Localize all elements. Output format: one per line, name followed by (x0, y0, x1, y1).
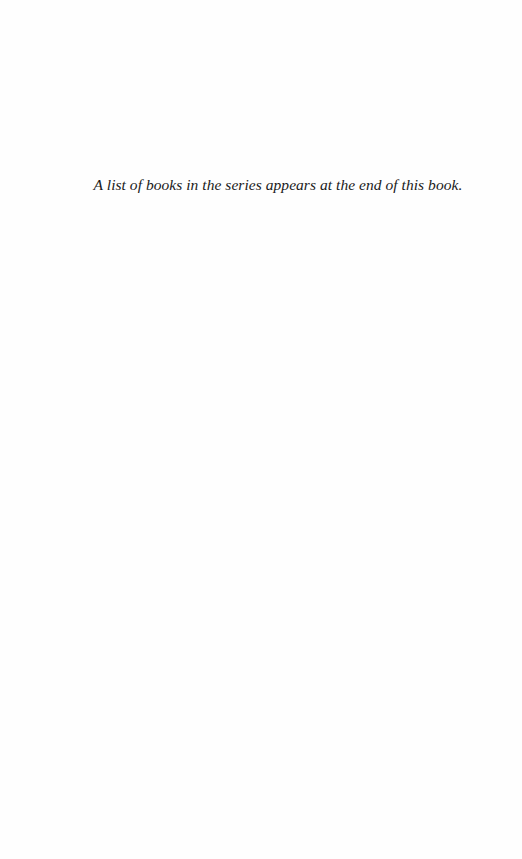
book-page: A list of books in the series appears at… (0, 0, 522, 859)
series-note-text: A list of books in the series appears at… (0, 175, 522, 195)
